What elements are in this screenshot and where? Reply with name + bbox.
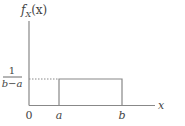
x-tick-b: b (118, 109, 125, 122)
y-tick-numerator: 1 (9, 65, 15, 76)
x-tick-a: a (56, 109, 63, 122)
y-tick-denominator: b−a (2, 78, 23, 89)
x-axis-label: x (158, 99, 165, 112)
y-axis-label: fX(x) (20, 3, 47, 19)
pdf-rectangle (59, 79, 122, 106)
x-tick-0: 0 (26, 109, 33, 122)
uniform-pdf-chart: fX(x) 1 b−a 0 a b x (0, 0, 185, 126)
